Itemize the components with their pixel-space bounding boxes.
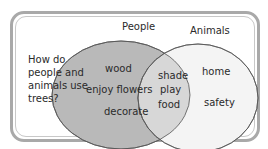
overlap-item: shade [158, 70, 188, 82]
animals-label: Animals [190, 25, 230, 37]
overlap-item: play [160, 84, 181, 96]
animals-item: home [202, 66, 230, 78]
animals-item: safety [204, 97, 235, 109]
people-item: enjoy flowers [86, 84, 153, 96]
people-label: People [122, 21, 155, 33]
people-item: decorate [104, 106, 148, 118]
people-item: wood [105, 63, 132, 75]
overlap-item: food [158, 99, 180, 111]
question-text: How do people and animals use trees? [28, 53, 88, 105]
